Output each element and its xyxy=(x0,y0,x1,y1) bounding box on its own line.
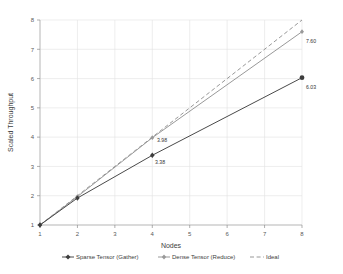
data-label-sparse-8: 6.03 xyxy=(306,84,316,90)
scaling-chart: 1 2 3 4 5 6 7 8 1 2 3 4 5 6 7 8 Nodes Sc… xyxy=(0,0,343,274)
data-label-sparse-4: 3.38 xyxy=(155,159,165,165)
data-label-dense-4: 3.98 xyxy=(157,137,167,143)
legend-label-dense: Dense Tensor (Reduce) xyxy=(172,254,235,260)
legend-label-sparse: Sparse Tensor (Gather) xyxy=(76,254,139,260)
legend-label-ideal: Ideal xyxy=(266,254,279,260)
x-axis-title: Nodes xyxy=(161,242,182,249)
y-axis-title: Scaled Throughput xyxy=(7,93,15,152)
data-label-dense-8: 7.60 xyxy=(306,38,316,44)
